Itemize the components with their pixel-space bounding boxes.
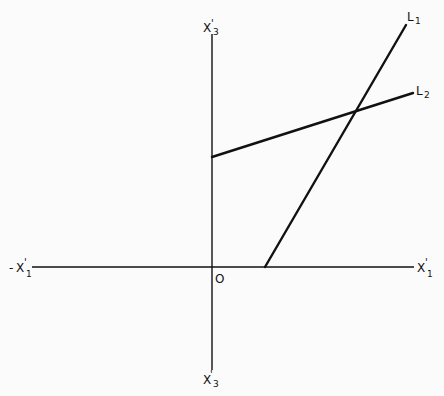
svg-text:1: 1 <box>415 16 421 26</box>
axis-label-neg-x1: - X ' 1 <box>9 257 32 279</box>
svg-text:': ' <box>425 257 428 268</box>
axis-label-x1: X ' 1 <box>417 257 433 279</box>
coordinate-plot: X ' 3 X ' 3 - X ' 1 X ' 1 O L 1 <box>0 0 444 396</box>
line-l2 <box>212 93 413 157</box>
origin-label: O <box>215 272 224 286</box>
svg-text:X: X <box>16 261 24 275</box>
svg-text:3: 3 <box>213 379 219 389</box>
axis-label-x3-bottom: X ' 3 <box>203 369 219 389</box>
line-label-l1: L 1 <box>407 10 421 26</box>
svg-text:L: L <box>407 10 414 24</box>
svg-text:X: X <box>203 21 211 35</box>
svg-text:3: 3 <box>213 27 219 37</box>
line-label-l2: L 2 <box>416 84 430 100</box>
axis-label-x3-top: X ' 3 <box>203 18 219 37</box>
svg-text:X: X <box>417 261 425 275</box>
diagram-figure: X ' 3 X ' 3 - X ' 1 X ' 1 O L 1 <box>0 0 444 396</box>
line-l1 <box>265 25 406 267</box>
svg-text:': ' <box>24 257 27 268</box>
svg-text:-: - <box>9 261 13 275</box>
svg-text:L: L <box>416 84 423 98</box>
svg-text:1: 1 <box>26 269 32 279</box>
svg-text:2: 2 <box>424 90 430 100</box>
svg-text:1: 1 <box>427 269 433 279</box>
